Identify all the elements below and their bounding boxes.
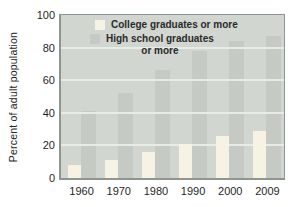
- legend-item-highschool: High school graduatesor more: [90, 33, 238, 57]
- plot-area: College graduates or moreHigh school gra…: [59, 14, 285, 180]
- legend-label-highschool: High school graduatesor more: [106, 33, 214, 57]
- figure: Percent of adult population 020406080100…: [0, 0, 301, 207]
- college-bar-1960: [68, 165, 81, 178]
- y-axis-title: Percent of adult population: [7, 32, 19, 162]
- college-bar-1990: [179, 144, 192, 178]
- legend-swatch-highschool: [90, 34, 100, 44]
- x-tick-label-1960: 1960: [69, 185, 93, 198]
- x-tick-label-1970: 1970: [107, 185, 131, 198]
- legend-label-college: College graduates or more: [111, 19, 238, 31]
- highschool-bar-2000: [229, 41, 244, 178]
- highschool-bar-1980: [155, 70, 170, 178]
- x-tick-label-1980: 1980: [144, 185, 168, 198]
- x-tick-label-2000: 2000: [218, 185, 242, 198]
- gridline: [61, 144, 284, 146]
- legend: College graduates or moreHigh school gra…: [90, 19, 238, 59]
- y-tick-label: 80: [24, 42, 55, 55]
- highschool-bar-1970: [118, 93, 133, 178]
- y-tick-label: 20: [24, 139, 55, 152]
- y-tick-label: 40: [24, 107, 55, 120]
- college-bar-2000: [216, 136, 229, 178]
- y-tick-label: 0: [24, 172, 55, 185]
- y-tick-label: 100: [24, 9, 55, 22]
- x-tick-label-1990: 1990: [181, 185, 205, 198]
- highschool-bar-1990: [192, 51, 207, 178]
- legend-item-college: College graduates or more: [95, 19, 238, 31]
- y-tick-label: 60: [24, 74, 55, 87]
- gridline: [61, 79, 284, 81]
- college-bar-2009: [253, 131, 266, 178]
- college-bar-1980: [142, 152, 155, 178]
- highschool-bar-2009: [266, 36, 281, 178]
- college-bar-1970: [105, 160, 118, 178]
- x-tick-label-2009: 2009: [255, 185, 279, 198]
- gridline: [61, 112, 284, 114]
- legend-swatch-college: [95, 20, 105, 30]
